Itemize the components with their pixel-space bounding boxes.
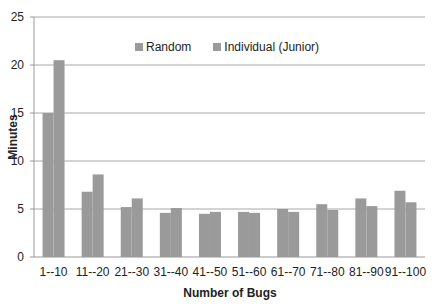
bar [277, 209, 288, 257]
x-tick-label: 51--60 [232, 265, 267, 279]
bar [405, 202, 416, 257]
bar [43, 113, 54, 257]
bar [121, 207, 132, 257]
x-tick-label: 1--10 [40, 265, 68, 279]
x-tick-label: 41--50 [193, 265, 228, 279]
legend-swatch-individual-junior [213, 43, 221, 51]
bar [82, 192, 93, 257]
bar [355, 198, 366, 257]
bar [54, 60, 65, 257]
legend-swatch-random [135, 43, 143, 51]
y-axis-title: Minutes [6, 114, 20, 160]
bar [238, 212, 249, 257]
bar [160, 213, 171, 257]
bar [210, 212, 221, 257]
bar [249, 213, 260, 257]
x-tick-label: 61--70 [271, 265, 306, 279]
legend-label-individual-junior: Individual (Junior) [224, 40, 319, 54]
x-axis-title: Number of Bugs [183, 286, 277, 300]
x-axis-ticks: 1--1011--2021--3031--4041--5051--6061--7… [40, 265, 427, 279]
bar [171, 208, 182, 257]
legend-label-random: Random [146, 40, 191, 54]
x-tick-label: 11--20 [76, 265, 110, 279]
bar [366, 206, 377, 257]
legend: Random Individual (Junior) [135, 40, 319, 54]
legend-item-individual-junior: Individual (Junior) [213, 40, 319, 54]
y-tick-label: 0 [17, 250, 24, 264]
x-tick-label: 21--30 [114, 265, 149, 279]
bar [132, 198, 143, 257]
x-tick-label: 31--40 [154, 265, 189, 279]
x-tick-label: 81--90 [349, 265, 384, 279]
bar [288, 212, 299, 257]
bar [199, 214, 210, 257]
y-tick-label: 20 [11, 58, 25, 72]
legend-item-random: Random [135, 40, 191, 54]
bar [93, 174, 104, 257]
bar [327, 210, 338, 257]
bars [43, 60, 417, 257]
bar [394, 191, 405, 257]
y-tick-label: 5 [17, 202, 24, 216]
x-tick-label: 71--80 [310, 265, 345, 279]
bar [316, 204, 327, 257]
x-tick-label: 91--100 [385, 265, 427, 279]
y-tick-label: 25 [11, 10, 25, 24]
